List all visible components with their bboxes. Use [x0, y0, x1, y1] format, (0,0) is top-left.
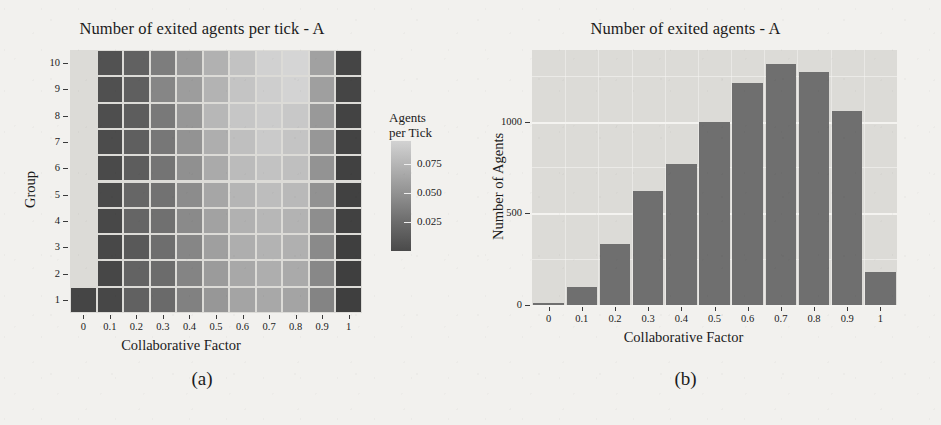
heatmap-cell — [257, 209, 282, 233]
heatmap-cell — [124, 77, 149, 101]
colorbar-tick-label: 0.075 — [417, 157, 442, 169]
barchart-y-axis-title: Number of Agents — [490, 132, 507, 239]
barchart-bar — [732, 83, 763, 305]
heatmap-x-tick-mark — [322, 315, 323, 319]
heatmap-cell — [230, 235, 255, 259]
barchart-bar — [666, 164, 697, 305]
colorbar-title: Agents per Tick — [389, 110, 432, 140]
colorbar-tick-label: 0.025 — [417, 215, 442, 227]
heatmap-y-tick-mark — [63, 247, 68, 248]
heatmap-cell — [151, 104, 176, 128]
heatmap-cell — [177, 51, 202, 75]
heatmap-y-tick-label: 1 — [30, 294, 60, 305]
heatmap-cell — [98, 235, 123, 259]
heatmap-cell — [98, 130, 123, 154]
heatmap-cell — [98, 77, 123, 101]
heatmap-cell — [204, 261, 229, 285]
heatmap-cell — [204, 209, 229, 233]
heatmap-x-tick-mark — [349, 315, 350, 319]
heatmap-cell — [283, 209, 308, 233]
heatmap-y-tick-label: 10 — [30, 57, 60, 68]
heatmap-cell — [283, 130, 308, 154]
heatmap-cell — [230, 261, 255, 285]
heatmap-cell — [283, 77, 308, 101]
heatmap-y-tick-label: 4 — [30, 215, 60, 226]
heatmap-cell — [336, 183, 361, 207]
heatmap-cell — [204, 77, 229, 101]
heatmap-cell — [310, 209, 335, 233]
barchart-x-tick-mark — [549, 307, 550, 311]
heatmap-cell — [336, 156, 361, 180]
heatmap-y-tick-mark — [63, 142, 68, 143]
barchart-x-tick-mark — [648, 307, 649, 311]
heatmap-cell — [336, 130, 361, 154]
heatmap-cell — [204, 104, 229, 128]
heatmap-cell — [336, 104, 361, 128]
heatmap-x-tick-mark — [110, 315, 111, 319]
heatmap-cell — [230, 77, 255, 101]
heatmap-cell — [283, 235, 308, 259]
heatmap-cell — [230, 183, 255, 207]
heatmap-cell — [98, 183, 123, 207]
heatmap-cell — [177, 130, 202, 154]
heatmap-cell — [151, 156, 176, 180]
heatmap-cell — [204, 183, 229, 207]
barchart-x-tick-mark — [814, 307, 815, 311]
heatmap-cell — [71, 288, 96, 312]
heatmap-cell — [124, 261, 149, 285]
heatmap-cell — [124, 104, 149, 128]
heatmap-cell — [310, 235, 335, 259]
heatmap-x-tick-mark — [216, 315, 217, 319]
barchart-y-tick-mark — [525, 305, 530, 306]
barchart-x-tick-mark — [582, 307, 583, 311]
heatmap-cell — [257, 77, 282, 101]
barchart-bar — [600, 244, 631, 305]
heatmap-cell — [151, 77, 176, 101]
heatmap-cell — [230, 288, 255, 312]
heatmap-cell — [124, 183, 149, 207]
barchart-y-tick-label: 0 — [480, 299, 522, 310]
heatmap-cell — [98, 51, 123, 75]
heatmap-cell — [177, 156, 202, 180]
barchart-x-tick-mark — [781, 307, 782, 311]
heatmap-cell — [283, 183, 308, 207]
heatmap-cell — [151, 130, 176, 154]
heatmap-cell — [283, 261, 308, 285]
barchart-y-tick-mark — [525, 122, 530, 123]
heatmap-cell — [177, 209, 202, 233]
barchart-y-tick-mark — [525, 213, 530, 214]
heatmap-cell — [336, 288, 361, 312]
colorbar-tick-mark — [404, 222, 411, 223]
heatmap-cell — [230, 209, 255, 233]
heatmap-cell — [151, 235, 176, 259]
heatmap-cell — [98, 288, 123, 312]
barchart-bar — [832, 111, 863, 305]
heatmap-cell — [151, 288, 176, 312]
heatmap-cell — [257, 183, 282, 207]
heatmap-cell — [204, 51, 229, 75]
heatmap-x-tick-mark — [189, 315, 190, 319]
panel-a-heatmap: Number of exited agents per tick - A 00.… — [0, 0, 470, 425]
heatmap-x-tick-mark — [296, 315, 297, 319]
panel-a-title: Number of exited agents per tick - A — [0, 19, 470, 39]
barchart-x-tick-mark — [847, 307, 848, 311]
heatmap-cell — [336, 209, 361, 233]
heatmap-cell — [257, 288, 282, 312]
heatmap-cell — [283, 104, 308, 128]
heatmap-cell — [124, 51, 149, 75]
barchart-x-axis-title: Collaborative Factor — [470, 329, 897, 346]
heatmap-y-tick-label: 8 — [30, 110, 60, 121]
barchart-x-tick-mark — [681, 307, 682, 311]
barchart-x-tick-label: 1 — [860, 313, 900, 324]
colorbar-title-line2: per Tick — [389, 125, 432, 140]
heatmap-cell — [204, 235, 229, 259]
colorbar-gradient — [391, 141, 411, 251]
heatmap-cell — [257, 156, 282, 180]
heatmap-cell — [230, 130, 255, 154]
heatmap-cell — [98, 261, 123, 285]
barchart-x-tick-mark — [880, 307, 881, 311]
heatmap-cell — [177, 261, 202, 285]
barchart-bar — [633, 191, 664, 305]
heatmap-cell — [151, 261, 176, 285]
colorbar-title-line1: Agents — [389, 110, 432, 125]
